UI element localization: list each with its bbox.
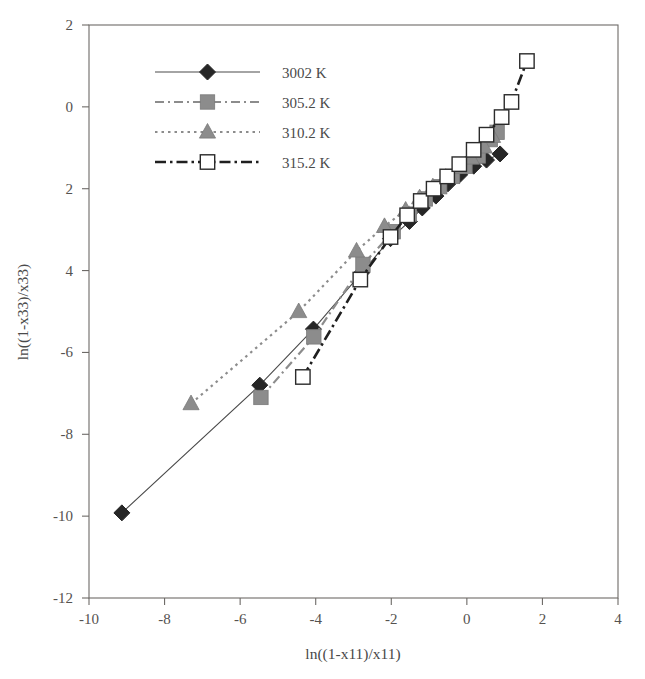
data-point-marker bbox=[307, 330, 321, 344]
data-point-marker bbox=[494, 110, 508, 124]
data-point-marker bbox=[466, 143, 480, 157]
y-axis-title: ln((1-x33)/x33) bbox=[14, 264, 32, 360]
data-point-marker bbox=[383, 230, 397, 244]
chart-figure: -10-8-6-4-2024 2024-6-8-10-12 3002 K305.… bbox=[0, 0, 645, 679]
data-point-marker bbox=[353, 272, 367, 286]
x-tick-label: 0 bbox=[463, 611, 471, 627]
y-tick-label: -8 bbox=[61, 426, 74, 442]
data-point-marker bbox=[400, 208, 414, 222]
data-point-marker bbox=[520, 54, 534, 68]
legend-label: 305.2 K bbox=[282, 95, 331, 111]
y-tick-label: -12 bbox=[53, 590, 73, 606]
data-point-marker bbox=[479, 127, 493, 141]
data-point-marker bbox=[426, 182, 440, 196]
x-tick-label: -10 bbox=[79, 611, 99, 627]
x-tick-label: -4 bbox=[309, 611, 322, 627]
x-tick-label: -6 bbox=[234, 611, 247, 627]
x-tick-label: -8 bbox=[158, 611, 171, 627]
data-point-marker bbox=[200, 155, 214, 169]
x-tick-label: 2 bbox=[539, 611, 547, 627]
y-tick-label: -10 bbox=[53, 508, 73, 524]
data-point-marker bbox=[452, 157, 466, 171]
x-axis-title: ln((1-x11)/x11) bbox=[305, 645, 400, 663]
x-tick-label: 4 bbox=[614, 611, 622, 627]
data-point-marker bbox=[254, 390, 268, 404]
data-point-marker bbox=[296, 370, 310, 384]
data-point-marker bbox=[504, 95, 518, 109]
data-point-marker bbox=[356, 257, 370, 271]
y-tick-label: 4 bbox=[66, 263, 74, 279]
legend-label: 315.2 K bbox=[282, 155, 331, 171]
data-point-marker bbox=[200, 95, 214, 109]
y-tick-label: 0 bbox=[66, 99, 74, 115]
legend-label: 310.2 K bbox=[282, 125, 331, 141]
y-tick-label: 2 bbox=[66, 17, 74, 33]
y-tick-label: 2 bbox=[66, 181, 74, 197]
x-tick-label: -2 bbox=[385, 611, 398, 627]
legend-label: 3002 K bbox=[282, 65, 327, 81]
scatter-plot-svg: -10-8-6-4-2024 2024-6-8-10-12 3002 K305.… bbox=[0, 0, 645, 679]
y-tick-label: -6 bbox=[61, 344, 74, 360]
